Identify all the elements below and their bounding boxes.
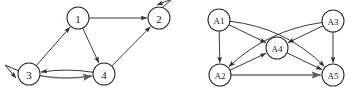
node-circle-a1 xyxy=(208,9,230,31)
node-circle-n4 xyxy=(93,63,115,85)
node-circle-n3 xyxy=(18,63,40,85)
node-3[interactable]: 3 xyxy=(18,63,40,85)
edge-a2-to-a4 xyxy=(230,53,266,70)
edge-n3-to-n4 xyxy=(40,76,92,78)
node-a3[interactable]: A3 xyxy=(322,10,344,32)
edge-n1-to-n4 xyxy=(83,28,99,63)
two-digraphs-figure: 1234A1A3A4A2A5 xyxy=(0,0,354,92)
edge-n4-to-n3 xyxy=(41,70,93,72)
self-loop-n3 xyxy=(5,65,19,78)
graph-canvas: 1234A1A3A4A2A5 xyxy=(0,0,354,92)
edge-a3-to-a4 xyxy=(288,26,323,43)
node-circle-n1 xyxy=(67,7,89,29)
node-circle-n2 xyxy=(148,7,170,29)
node-a1[interactable]: A1 xyxy=(208,9,230,31)
nodes-layer: 1234A1A3A4A2A5 xyxy=(18,7,344,86)
node-1[interactable]: 1 xyxy=(67,7,89,29)
edge-n3-to-n1 xyxy=(36,27,70,66)
node-a4[interactable]: A4 xyxy=(266,37,288,59)
node-circle-a3 xyxy=(322,10,344,32)
node-circle-a5 xyxy=(322,64,344,86)
node-circle-a2 xyxy=(209,64,231,86)
node-a2[interactable]: A2 xyxy=(209,64,231,86)
edge-a1-to-a2 xyxy=(219,31,220,63)
edge-n4-to-n2 xyxy=(112,27,151,66)
node-circle-a4 xyxy=(266,37,288,59)
node-a5[interactable]: A5 xyxy=(322,64,344,86)
node-4[interactable]: 4 xyxy=(93,63,115,85)
node-2[interactable]: 2 xyxy=(148,7,170,29)
edge-a4-to-a5 xyxy=(287,53,322,70)
